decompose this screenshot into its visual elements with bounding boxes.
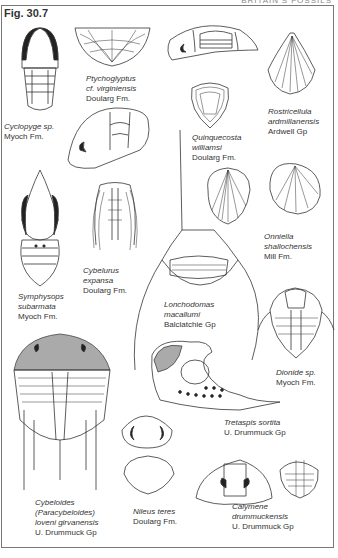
symphysops-drawing xyxy=(21,170,59,286)
calymene-drawing xyxy=(196,460,318,504)
specimen-label-cybelurus: Cybelurus expansa Doularg Fm. xyxy=(83,266,127,296)
species-name: Nileus teres xyxy=(133,507,177,517)
species-name: Quinquecosta xyxy=(192,133,241,143)
onniella-drawing xyxy=(208,164,320,224)
formation: Myoch Fm. xyxy=(4,132,54,142)
specimen-label-cybeloides: Cybeloides (Paracybeloides) loveni girva… xyxy=(35,498,99,538)
formation: Doularg Fm. xyxy=(83,286,127,296)
species-name: cf. virginiensis xyxy=(86,84,136,94)
formation: U. Drummuck Gp xyxy=(224,428,286,438)
formation: Myoch Fm. xyxy=(276,378,316,388)
specimen-label-nileus: Nileus teres Doularg Fm. xyxy=(133,507,177,527)
rostricellula-drawing xyxy=(268,33,315,94)
species-name: Calymene xyxy=(232,502,294,512)
formation: U. Drummuck Gp xyxy=(232,522,294,532)
species-name: expansa xyxy=(83,276,127,286)
species-name: Symphysops xyxy=(18,292,64,302)
lonchodomas-drawing xyxy=(134,130,258,370)
specimen-label-calymene: Calymene drummuckensis U. Drummuck Gp xyxy=(232,502,294,532)
cybeloides-drawing xyxy=(14,334,110,490)
formation: Myoch Fm. xyxy=(18,312,64,322)
cephalon-drawing xyxy=(168,26,258,60)
cranidium-drawing xyxy=(68,108,149,168)
species-name: subarmata xyxy=(18,302,64,312)
formation: Doularg Fm. xyxy=(133,517,177,527)
ptychoglyptus-drawing xyxy=(75,28,150,66)
species-name: shallochensis xyxy=(264,242,312,252)
formation: Doularg Fm. xyxy=(86,94,136,104)
fossil-illustrations xyxy=(0,0,338,558)
species-name: (Paracybeloides) xyxy=(35,508,99,518)
quinquecosta-drawing xyxy=(191,83,228,128)
specimen-label-tretaspis: Tretaspis sortita U. Drummuck Gp xyxy=(224,418,286,438)
species-name: Cyclopyge sp. xyxy=(4,122,54,132)
species-name: williamsi xyxy=(192,143,241,153)
formation: Doularg Fm. xyxy=(192,153,241,163)
species-name: Tretaspis sortita xyxy=(224,418,286,428)
cybelurus-drawing xyxy=(93,183,137,251)
species-name: Ptychoglyptus xyxy=(86,74,136,84)
dionide-drawing xyxy=(258,288,334,358)
species-name: Cybelurus xyxy=(83,266,127,276)
specimen-label-ptychoglyptus: Ptychoglyptus cf. virginiensis Doularg F… xyxy=(86,74,136,104)
species-name: Lonchodomas xyxy=(164,300,216,310)
formation: Mill Fm. xyxy=(264,252,312,262)
species-name: ardmillanensis xyxy=(268,117,319,127)
species-name: Onniella xyxy=(264,232,312,242)
tretaspis-drawing xyxy=(152,341,280,410)
formation: Ardwell Gp xyxy=(268,127,319,137)
specimen-label-cyclopyge: Cyclopyge sp. Myoch Fm. xyxy=(4,122,54,142)
species-name: Dionide sp. xyxy=(276,368,316,378)
species-name: loveni girvanensis xyxy=(35,518,99,528)
species-name: Rostricellula xyxy=(268,107,319,117)
formation: Balclatchie Gp xyxy=(164,320,216,330)
specimen-label-rostricellula: Rostricellula ardmillanensis Ardwell Gp xyxy=(268,107,319,137)
species-name: Cybeloides xyxy=(35,498,99,508)
specimen-label-lonchodomas: Lonchodomas macallumi Balclatchie Gp xyxy=(164,300,216,330)
species-name: drummuckensis xyxy=(232,512,294,522)
nileus-drawing xyxy=(122,416,174,494)
species-name: macallumi xyxy=(164,310,216,320)
specimen-label-onniella: Onniella shallochensis Mill Fm. xyxy=(264,232,312,262)
specimen-label-symphysops: Symphysops subarmata Myoch Fm. xyxy=(18,292,64,322)
formation: U. Drummuck Gp xyxy=(35,528,99,538)
specimen-label-dionide: Dionide sp. Myoch Fm. xyxy=(276,368,316,388)
cyclopyge-drawing xyxy=(22,28,58,110)
specimen-label-quinquecosta: Quinquecosta williamsi Doularg Fm. xyxy=(192,133,241,163)
